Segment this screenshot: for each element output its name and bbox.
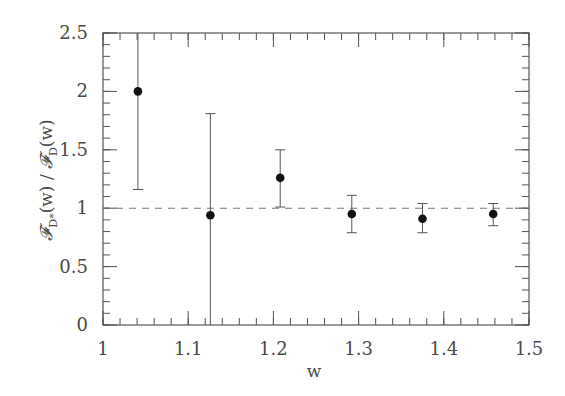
x-tick-label: 1.5: [515, 338, 544, 359]
y-axis-label: 𝓕D*(w) / 𝓕D(w): [36, 119, 60, 240]
plot-frame: [103, 33, 529, 325]
x-tick-label: 1.3: [344, 338, 373, 359]
x-tick-label: 1.2: [259, 338, 288, 359]
chart: 11.11.21.31.41.5 00.511.522.5 w 𝓕D*(w) /…: [0, 0, 565, 396]
data-point: [418, 214, 427, 223]
y-tick-label: 1: [77, 197, 88, 218]
x-tick-label: 1.4: [429, 338, 458, 359]
y-label-sub-num: D*: [47, 213, 60, 228]
data-point: [347, 210, 356, 219]
data-point: [134, 87, 143, 96]
y-tick-label: 0: [77, 314, 88, 335]
minor-ticks: [103, 33, 529, 325]
y-tick-label: 1.5: [59, 139, 88, 160]
x-tick-labels: 11.11.21.31.41.5: [97, 338, 543, 359]
major-ticks: [103, 33, 529, 325]
y-label-sub-den: D: [47, 147, 60, 156]
y-label-slash: /: [36, 169, 56, 186]
data-points: [134, 87, 498, 223]
y-label-arg-den: (w): [36, 119, 56, 147]
data-point: [206, 211, 215, 220]
y-tick-label: 2.5: [59, 22, 88, 43]
x-axis-label: w: [307, 361, 322, 381]
y-tick-labels: 00.511.522.5: [59, 22, 88, 335]
y-tick-label: 2: [77, 80, 88, 101]
x-tick-label: 1.1: [174, 338, 203, 359]
data-point: [276, 174, 285, 183]
y-tick-label: 0.5: [59, 256, 88, 277]
data-point: [489, 210, 498, 219]
error-bars: [133, 33, 498, 325]
x-tick-label: 1: [97, 338, 108, 359]
svg-text:𝓕D*(w) / 𝓕D(w): 𝓕D*(w) / 𝓕D(w): [36, 119, 60, 240]
y-label-arg-num: (w): [36, 186, 56, 214]
